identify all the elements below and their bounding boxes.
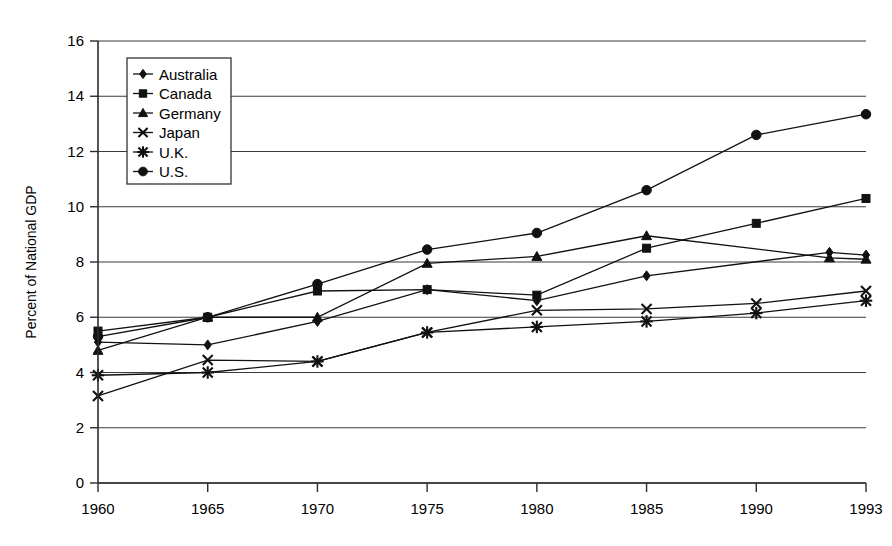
x-tick-label: 1960 <box>81 500 114 517</box>
y-tick-label: 4 <box>76 364 84 381</box>
x-tick-label: 1990 <box>740 500 773 517</box>
data-point-asterisk <box>640 315 653 328</box>
y-tick-label: 0 <box>76 474 84 491</box>
data-point-asterisk <box>750 307 763 320</box>
legend-label: U.K. <box>159 144 188 161</box>
y-tick-label: 16 <box>67 32 84 49</box>
y-axis-title: Percent of National GDP <box>23 185 39 338</box>
data-point-asterisk <box>201 366 214 379</box>
chart-canvas: 0246810121416 19601965197019751980198519… <box>0 0 892 546</box>
data-point-circle <box>422 245 432 255</box>
data-point-asterisk <box>311 355 324 368</box>
data-point-asterisk <box>421 326 434 339</box>
x-tick-label: 1975 <box>410 500 443 517</box>
legend-label: U.S. <box>159 163 188 180</box>
legend-label: Canada <box>159 85 212 102</box>
chart-legend: AustraliaCanadaGermanyJapanU.K.U.S. <box>127 58 231 184</box>
data-point-asterisk <box>531 321 544 334</box>
data-point-square <box>643 244 651 252</box>
x-tick-label: 1985 <box>630 500 663 517</box>
data-point-circle <box>861 109 871 119</box>
line-chart: 0246810121416 19601965197019751980198519… <box>0 0 892 546</box>
y-tick-label: 14 <box>67 87 84 104</box>
x-tick-label: 1980 <box>520 500 553 517</box>
legend-label: Germany <box>159 105 221 122</box>
x-tick-label: 1993 <box>849 500 882 517</box>
y-tick-label: 8 <box>76 253 84 270</box>
x-tick-label: 1970 <box>301 500 334 517</box>
y-tick-label: 2 <box>76 419 84 436</box>
data-point-square <box>862 194 870 202</box>
data-point-asterisk <box>137 146 149 158</box>
y-tick-label: 12 <box>67 143 84 160</box>
x-tick-label: 1965 <box>191 500 224 517</box>
data-point-circle <box>313 279 323 289</box>
y-tick-label: 6 <box>76 308 84 325</box>
data-point-circle <box>532 228 542 238</box>
data-point-circle <box>642 185 652 195</box>
data-point-asterisk <box>860 294 873 307</box>
data-point-square <box>423 286 431 294</box>
data-point-circle <box>139 167 148 176</box>
legend-label: Japan <box>159 124 200 141</box>
legend-label: Australia <box>159 66 218 83</box>
y-tick-label: 10 <box>67 198 84 215</box>
data-point-circle <box>752 130 762 140</box>
data-point-circle <box>203 313 213 323</box>
data-point-square <box>752 219 760 227</box>
data-point-square <box>139 90 146 97</box>
data-point-square <box>533 291 541 299</box>
